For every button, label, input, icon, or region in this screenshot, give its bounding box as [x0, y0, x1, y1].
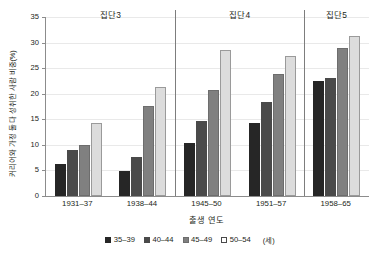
legend-item[interactable]: 45–49 [183, 235, 213, 244]
bar-group [46, 17, 111, 196]
bar [79, 145, 90, 196]
bar-group [304, 17, 369, 196]
bar [196, 121, 207, 196]
bar [208, 90, 219, 196]
bar [249, 123, 260, 196]
bar [143, 106, 154, 196]
legend-item[interactable]: 50–54 [221, 235, 251, 244]
bar [91, 123, 102, 196]
bar-groups [46, 17, 369, 196]
y-axis-tick-label: 35 [31, 13, 39, 21]
y-axis-tick-label: 5 [35, 167, 39, 175]
y-axis-tick-label: 20 [31, 90, 39, 98]
legend-label: 45–49 [191, 235, 212, 244]
y-axis-tick-label: 25 [31, 64, 39, 72]
y-axis-title: 커리어와 가정 둘 다 성취한 사람 비중(%) [6, 19, 17, 209]
bar [337, 48, 348, 196]
y-axis-tick-label: 10 [31, 141, 39, 149]
legend-swatch-icon [105, 237, 111, 243]
bar [261, 102, 272, 196]
legend-label: 40–44 [152, 235, 173, 244]
legend-unit-label: (세) [263, 234, 275, 245]
y-axis-tick-label: 30 [31, 39, 39, 47]
bar [220, 50, 231, 196]
y-axis-tick-label: 0 [35, 192, 39, 200]
bar [155, 87, 166, 196]
legend-swatch-icon [144, 237, 150, 243]
bar [325, 78, 336, 196]
x-axis-tick-label: 1931–37 [45, 199, 110, 208]
legend-swatch-icon [183, 237, 189, 243]
x-axis-tick-label: 1958–65 [303, 199, 368, 208]
legend-label: 50–54 [230, 235, 251, 244]
x-axis-tick-label: 1945–50 [174, 199, 239, 208]
bar [67, 150, 78, 196]
x-axis-tick-labels: 1931–371938–441945–501951–571958–65 [45, 199, 368, 208]
bar [119, 171, 130, 196]
legend-item[interactable]: 40–44 [144, 235, 174, 244]
x-axis-title: 출생 연도 [45, 213, 368, 225]
x-axis-tick-label: 1938–44 [110, 199, 175, 208]
bar [313, 81, 324, 196]
plot-area: 05101520253035 집단3집단4집단5 [45, 17, 369, 197]
y-axis-tick [42, 196, 46, 197]
bar [55, 164, 66, 196]
legend-item[interactable]: 35–39 [105, 235, 135, 244]
y-axis-tick-label: 15 [31, 115, 39, 123]
legend: 35–3940–4445–4950–54(세) [0, 234, 380, 245]
bar [273, 74, 284, 196]
bar-group [111, 17, 176, 196]
legend-swatch-icon [221, 237, 227, 243]
legend-label: 35–39 [114, 235, 135, 244]
bar [184, 143, 195, 196]
bar [285, 56, 296, 196]
bar [131, 157, 142, 196]
x-axis-tick-label: 1951–57 [239, 199, 304, 208]
bar-chart: 커리어와 가정 둘 다 성취한 사람 비중(%) 05101520253035 … [0, 0, 380, 256]
bar-group [175, 17, 240, 196]
bar-group [240, 17, 305, 196]
bar [349, 36, 360, 196]
